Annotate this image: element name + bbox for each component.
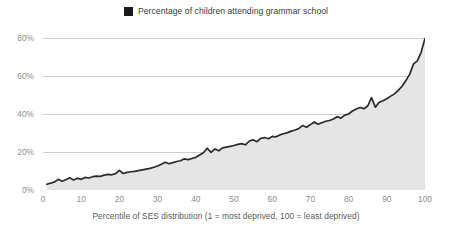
x-tick-label: 100 bbox=[418, 194, 432, 204]
y-tick-label: 40% bbox=[17, 109, 34, 119]
x-tick-label: 80 bbox=[344, 194, 353, 204]
x-tick-label: 50 bbox=[229, 194, 238, 204]
y-tick-label: 60% bbox=[17, 71, 34, 81]
y-tick-label: 80% bbox=[17, 33, 34, 43]
legend-swatch-icon bbox=[124, 7, 133, 16]
x-tick-label: 40 bbox=[191, 194, 200, 204]
x-axis: 0102030405060708090100 bbox=[43, 191, 425, 207]
legend-label: Percentage of children attending grammar… bbox=[138, 6, 328, 16]
x-tick-label: 10 bbox=[77, 194, 86, 204]
x-tick-label: 0 bbox=[41, 194, 46, 204]
y-axis: 0%20%40%60%80% bbox=[0, 38, 39, 190]
x-tick-label: 90 bbox=[382, 194, 391, 204]
chart-container: Percentage of children attending grammar… bbox=[0, 0, 452, 237]
plot-area bbox=[43, 38, 425, 190]
x-tick-label: 20 bbox=[115, 194, 124, 204]
x-axis-title: Percentile of SES distribution (1 = most… bbox=[0, 211, 452, 221]
x-tick-label: 60 bbox=[268, 194, 277, 204]
x-tick-label: 30 bbox=[153, 194, 162, 204]
area-chart-svg bbox=[43, 38, 425, 190]
x-tick-label: 70 bbox=[306, 194, 315, 204]
chart-legend: Percentage of children attending grammar… bbox=[0, 6, 452, 16]
y-tick-label: 20% bbox=[17, 147, 34, 157]
y-tick-label: 0% bbox=[22, 185, 34, 195]
